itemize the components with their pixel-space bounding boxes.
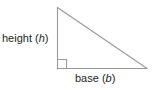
base-label-suffix: ): [112, 72, 116, 84]
height-label-suffix: ): [45, 32, 49, 44]
hypotenuse-line: [58, 8, 148, 69]
base-label-prefix: base (: [75, 72, 106, 84]
height-label-prefix: height (: [2, 32, 39, 44]
right-angle-marker-icon: [59, 60, 67, 68]
right-triangle-figure: height (h) base (b): [0, 0, 152, 92]
base-label: base (b): [75, 72, 115, 84]
height-label: height (h): [2, 32, 49, 44]
